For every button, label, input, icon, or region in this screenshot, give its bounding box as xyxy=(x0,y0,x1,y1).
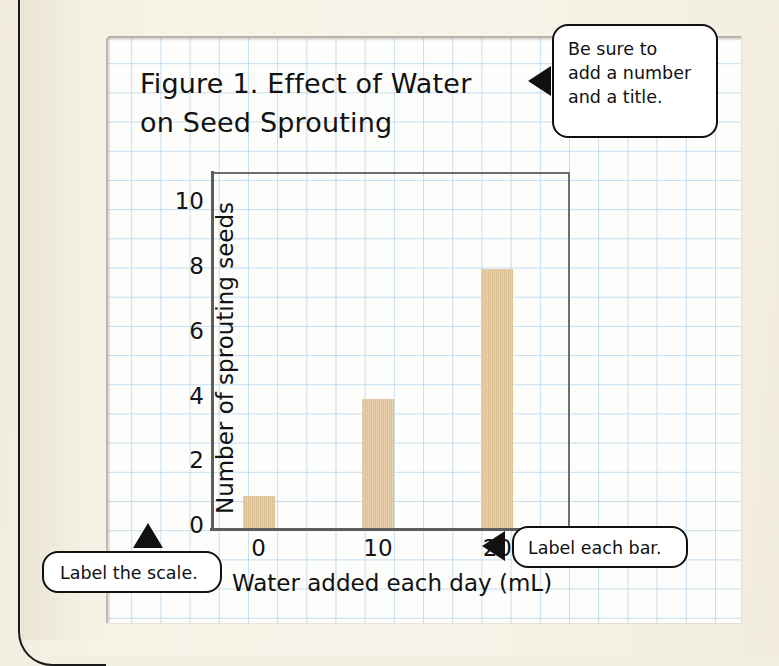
paper-left-shadow xyxy=(106,38,111,623)
callout-label-the-scale: Label the scale. xyxy=(42,551,222,593)
callout-label-each-bar: Label each bar. xyxy=(512,526,688,568)
y-axis-title: Number of sprouting seeds xyxy=(212,193,238,523)
bar-0 xyxy=(243,496,275,528)
callout-bar-text: Label each bar. xyxy=(528,536,686,560)
x-tick-label-10: 10 xyxy=(343,535,413,561)
callout-pointer-left-icon xyxy=(482,531,505,561)
x-tick-label-0: 0 xyxy=(224,535,294,561)
callout-title-line-3: and a title. xyxy=(568,85,716,109)
x-axis-title: Water added each day (mL) xyxy=(212,570,572,596)
callout-title-line-1: Be sure to xyxy=(568,37,716,61)
bar-10 xyxy=(362,399,394,528)
bar-20 xyxy=(481,269,513,528)
callout-pointer-up-icon xyxy=(133,523,163,548)
callout-add-number-and-title: Be sure to add a number and a title. xyxy=(552,24,718,138)
callout-title-line-2: add a number xyxy=(568,61,716,85)
callout-scale-text: Label the scale. xyxy=(60,561,220,585)
callout-pointer-left-icon xyxy=(528,66,551,96)
